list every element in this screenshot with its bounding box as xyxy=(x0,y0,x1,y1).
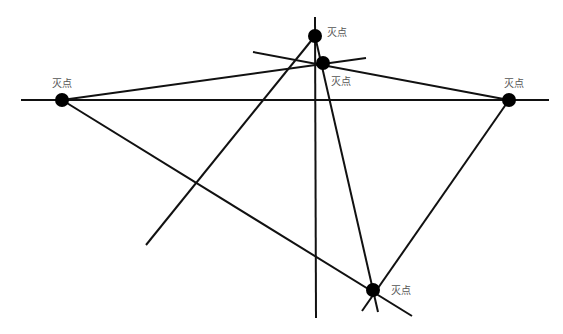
vp-mid-dot-icon xyxy=(316,56,330,70)
vp-right-label: 灭点 xyxy=(504,78,524,90)
line-cross-through-mid xyxy=(253,52,509,100)
vp-top-label: 灭点 xyxy=(327,27,347,39)
vp-mid-label: 灭点 xyxy=(331,76,351,88)
line-vertical xyxy=(315,17,316,318)
vp-left-label: 灭点 xyxy=(52,78,72,90)
vp-bottom-label: 灭点 xyxy=(391,285,411,297)
construction-lines xyxy=(21,17,549,318)
line-right-to-bottom xyxy=(362,100,509,311)
perspective-diagram xyxy=(0,0,563,334)
vp-right-dot-icon xyxy=(502,93,516,107)
vp-top-dot-icon xyxy=(308,29,322,43)
vp-bottom-dot-icon xyxy=(366,283,380,297)
vp-left-dot-icon xyxy=(55,93,69,107)
line-top-to-lowerleft xyxy=(146,36,315,245)
